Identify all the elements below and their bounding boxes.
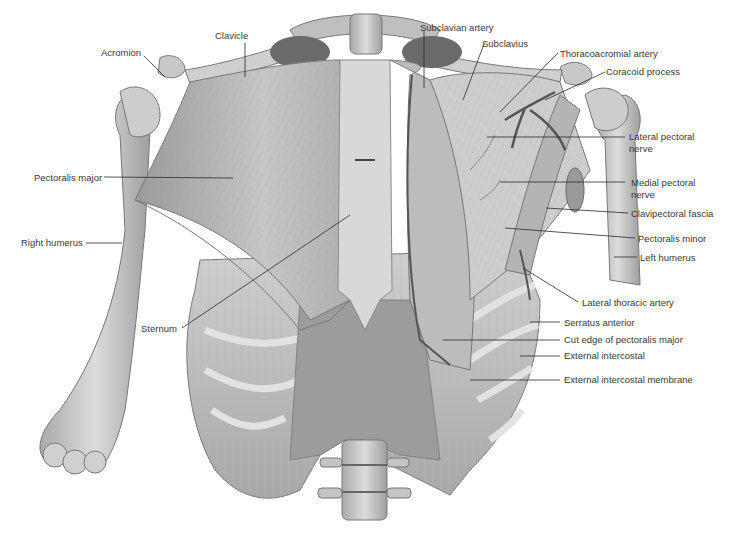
- label-clavipectoral-fascia: Clavipectoral fascia: [631, 208, 713, 219]
- label-thoracoacromial-artery: Thoracoacromial artery: [560, 48, 658, 59]
- label-sternum: Sternum: [141, 323, 177, 334]
- label-lateral-thoracic-artery: Lateral thoracic artery: [582, 297, 674, 308]
- label-coracoid-process: Coracoid process: [606, 66, 680, 77]
- label-external-intercostal-membrane: External intercostal membrane: [564, 374, 693, 385]
- label-lateral-pectoral-nerve: Lateral pectoral: [629, 131, 694, 142]
- label-right-humerus: Right humerus: [21, 237, 83, 248]
- right-humerus-shape: [40, 87, 160, 474]
- label-medial-pectoral-nerve: Medial pectoral: [631, 177, 695, 188]
- label-subclavian-artery: Subclavian artery: [420, 22, 493, 33]
- label-cut-edge-pectoralis-major: Cut edge of pectoralis major: [564, 334, 683, 345]
- label-serratus-anterior: Serratus anterior: [564, 317, 635, 328]
- thorax-illustration: [0, 0, 731, 540]
- anatomy-figure: Acromion Clavicle Subclavian artery Subc…: [0, 0, 731, 540]
- label-left-humerus: Left humerus: [640, 252, 695, 263]
- label-pectoralis-minor: Pectoralis minor: [638, 233, 706, 244]
- label-medial-pectoral-nerve-line2: nerve: [631, 189, 655, 200]
- label-subclavius: Subclavius: [482, 38, 528, 49]
- label-acromion: Acromion: [101, 47, 141, 58]
- label-pectoralis-major: Pectoralis major: [34, 172, 102, 183]
- label-lateral-pectoral-nerve-line2: nerve: [629, 143, 653, 154]
- label-clavicle: Clavicle: [215, 30, 248, 41]
- label-external-intercostal: External intercostal: [564, 350, 645, 361]
- sternum-shape: [338, 60, 392, 330]
